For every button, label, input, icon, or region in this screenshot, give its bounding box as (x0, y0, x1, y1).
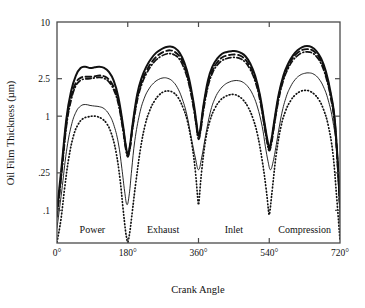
stroke-label-inlet: Inlet (225, 224, 244, 235)
x-axis-title: Crank Angle (171, 284, 225, 295)
stroke-label-compression: Compression (278, 224, 331, 235)
x-tick-label: 0° (53, 248, 62, 258)
stroke-label-power: Power (80, 224, 106, 235)
stroke-label-exhaust: Exhaust (147, 224, 179, 235)
x-tick-label: 720° (331, 248, 349, 258)
x-tick-label: 360° (189, 248, 207, 258)
y-tick-label: 1 (45, 112, 50, 122)
y-axis-title: Oil Film Thickness (µm) (5, 80, 17, 185)
x-tick-label: 180° (119, 248, 137, 258)
y-tick-label: 10 (41, 18, 51, 28)
x-tick-label: 540° (260, 248, 278, 258)
chart-figure: 102.51.25.1 0°180°360°540°720° PowerExha… (0, 0, 365, 308)
y-tick-label: 2.5 (38, 74, 50, 84)
oil-film-thickness-chart: 102.51.25.1 0°180°360°540°720° PowerExha… (0, 0, 365, 308)
y-tick-label: .25 (38, 168, 50, 178)
y-tick-label: .1 (43, 206, 50, 216)
